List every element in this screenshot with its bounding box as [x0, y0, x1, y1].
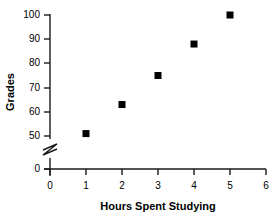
x-tick-label-4: 4	[191, 180, 197, 191]
data-point	[83, 130, 90, 137]
y-axis-break-icon	[43, 144, 57, 155]
data-point-series	[83, 12, 234, 138]
x-tick-label-2: 2	[119, 180, 125, 191]
x-tick-label-5: 5	[227, 180, 233, 191]
y-tick-label-50: 50	[29, 130, 41, 141]
data-point	[191, 41, 198, 48]
chart-canvas: 100 90 80 70 60 50 0 0 1 2 3 4 5 6 Hours…	[0, 0, 274, 219]
x-tick-label-3: 3	[155, 180, 161, 191]
x-tick-label-6: 6	[263, 180, 269, 191]
y-tick-label-90: 90	[29, 33, 41, 44]
x-tick-label-0: 0	[47, 180, 53, 191]
x-tick-label-1: 1	[83, 180, 89, 191]
data-point	[155, 72, 162, 79]
y-tick-label-80: 80	[29, 57, 41, 68]
x-axis-title: Hours Spent Studying	[100, 200, 216, 212]
data-point	[119, 101, 126, 108]
data-point	[227, 12, 234, 19]
y-tick-label-100: 100	[23, 9, 40, 20]
scatter-chart: 100 90 80 70 60 50 0 0 1 2 3 4 5 6 Hours…	[0, 0, 274, 219]
y-tick-label-0: 0	[34, 163, 40, 174]
y-axis-title: Grades	[4, 73, 16, 111]
y-tick-label-60: 60	[29, 106, 41, 117]
y-tick-label-70: 70	[29, 82, 41, 93]
